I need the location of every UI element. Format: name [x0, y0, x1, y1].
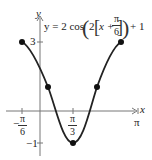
equation-prefix: y = 2 cos — [44, 21, 84, 32]
x-tick-num: π — [20, 114, 25, 124]
y-tick-label-3: 3 — [30, 36, 36, 47]
equation-pi: π — [114, 14, 119, 24]
x-tick-den: 3 — [70, 127, 75, 137]
svg-text:): ) — [122, 15, 129, 40]
x-tick-num: π — [70, 114, 75, 124]
point-mid-left — [45, 84, 51, 90]
equation-six: 6 — [114, 27, 119, 37]
point-mid-right — [94, 84, 100, 90]
equation-fraction: π 6 — [112, 14, 121, 37]
x-tick-label-pi-3: π 3 — [68, 114, 77, 137]
point-min — [70, 140, 76, 146]
y-axis-label: y — [36, 8, 41, 19]
equation-suffix: + 1 — [130, 21, 144, 32]
point-max-left — [19, 39, 25, 45]
x-tick-label-pi: π — [134, 117, 140, 128]
x-tick-label-neg-pi-6: π 6 — [18, 114, 27, 137]
x-axis-label: x — [140, 104, 145, 115]
x-tick-den: 6 — [20, 127, 25, 137]
y-tick-label-neg1: −1 — [26, 138, 38, 149]
equation-inner-coef: 2 — [89, 21, 95, 32]
